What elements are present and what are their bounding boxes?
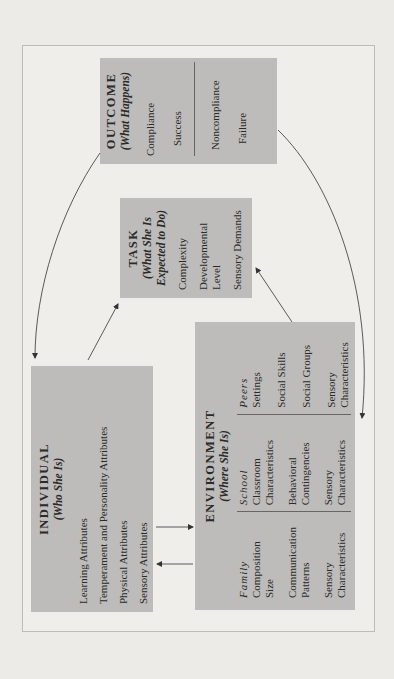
- task-item: Sensory Demands: [231, 206, 244, 290]
- column-heading: Peers: [237, 334, 250, 408]
- individual-item: Sensory Attributes: [137, 374, 150, 604]
- column-item: Characteristics: [335, 518, 348, 598]
- environment-title: ENVIRONMENT: [203, 328, 217, 604]
- column-item: Communication: [286, 518, 299, 598]
- column-item: Characteristics: [335, 421, 348, 506]
- column-item: Classroom: [250, 421, 263, 506]
- task-title: TASK: [126, 206, 140, 290]
- outcome-item: Success: [171, 64, 184, 158]
- individual-title: INDIVIDUAL: [37, 374, 51, 604]
- column-heading: School: [237, 421, 250, 506]
- task-subtitle: Expected to Do): [154, 206, 168, 290]
- environment-box: ENVIRONMENT (Where She Is) Family Compos…: [195, 322, 355, 610]
- environment-column-school: School Classroom Characteristics Behavio…: [237, 415, 351, 512]
- column-divider: [237, 414, 351, 415]
- outcome-item: Failure: [236, 64, 249, 158]
- column-item: Social Skills: [275, 334, 288, 408]
- column-item: Patterns: [299, 518, 312, 598]
- outcome-title: OUTCOME: [104, 64, 118, 158]
- column-item: Size: [263, 518, 276, 598]
- column-item: Composition: [250, 518, 263, 598]
- environment-column-peers: Peers Settings Social Skills Social Grou…: [237, 328, 351, 414]
- environment-columns: Family Composition Size Communication Pa…: [237, 328, 351, 604]
- column-item: Social Groups: [300, 334, 313, 408]
- individual-box: INDIVIDUAL (Who She Is) Learning Attribu…: [31, 366, 153, 612]
- outcome-item: Noncompliance: [209, 64, 222, 158]
- individual-subtitle: (Who She Is): [51, 374, 65, 604]
- task-item: Developmental: [197, 206, 210, 290]
- task-item: Complexity: [176, 206, 189, 290]
- column-item: Sensory: [322, 421, 335, 506]
- outcome-divider: [194, 62, 195, 156]
- environment-column-family: Family Composition Size Communication Pa…: [237, 512, 351, 604]
- outcome-item: Compliance: [144, 64, 157, 158]
- outcome-subtitle: (What Happens): [118, 64, 132, 158]
- task-item: Level: [210, 206, 223, 290]
- task-subtitle: (What She Is: [140, 206, 154, 290]
- environment-subtitle: (Where She Is): [217, 328, 231, 604]
- task-box: TASK (What She Is Expected to Do) Comple…: [120, 198, 252, 298]
- individual-item: Temperament and Personality Attributes: [97, 374, 110, 604]
- column-divider: [237, 511, 351, 512]
- individual-item: Physical Attributes: [117, 374, 130, 604]
- individual-item: Learning Attributes: [77, 374, 90, 604]
- outcome-box: OUTCOME (What Happens) Compliance Succes…: [100, 58, 277, 164]
- column-item: Characteristics: [263, 421, 276, 506]
- column-item: Characteristics: [338, 334, 351, 408]
- column-heading: Family: [237, 518, 250, 598]
- column-item: Contingencies: [299, 421, 312, 506]
- column-item: Behavioral: [286, 421, 299, 506]
- column-item: Settings: [250, 334, 263, 408]
- column-item: Sensory: [325, 334, 338, 408]
- column-item: Sensory: [322, 518, 335, 598]
